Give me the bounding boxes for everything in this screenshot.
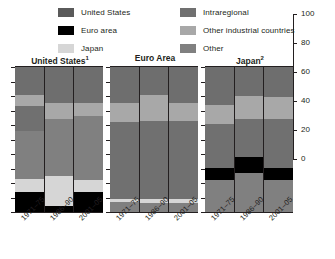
panel-title-text: United States	[31, 56, 85, 66]
bar-segment[interactable]	[140, 121, 169, 199]
stacked-bar[interactable]	[74, 67, 103, 212]
y-axis-tick	[293, 14, 297, 15]
bar-segment[interactable]	[15, 106, 44, 131]
bar-segment[interactable]	[264, 97, 293, 119]
y-axis-tick	[293, 159, 297, 160]
chart-legend: United StatesEuro areaJapan Intraregiona…	[0, 0, 335, 52]
legend-item-label: Other industrial countries	[203, 26, 295, 35]
bar-segment[interactable]	[45, 119, 74, 176]
bar-segment[interactable]	[45, 67, 74, 103]
bar-segment[interactable]	[169, 103, 198, 120]
bar-segment[interactable]	[169, 67, 198, 103]
bar-segment[interactable]	[264, 119, 293, 168]
panel-title-footnote: 2	[261, 55, 264, 61]
panel-title: United States1	[15, 52, 105, 66]
chart-panel: Euro Area1971–751986–902001–05	[110, 52, 200, 259]
legend-item[interactable]: Intraregional	[180, 4, 295, 20]
stacked-bar[interactable]	[264, 67, 293, 212]
bar-segment[interactable]	[110, 122, 139, 199]
chart-panel: United States11971–751986–902001–05	[15, 52, 105, 259]
y-axis-tick	[293, 101, 297, 102]
bar-group	[15, 67, 103, 212]
legend-item[interactable]: Euro area	[58, 22, 130, 38]
bar-segment[interactable]	[235, 96, 264, 119]
legend-swatch-united-states	[58, 8, 74, 17]
bar-segment[interactable]	[235, 119, 264, 157]
stacked-bar[interactable]	[235, 67, 265, 212]
legend-item[interactable]: United States	[58, 4, 130, 20]
stacked-bar[interactable]	[205, 67, 235, 212]
chart-panels: United States11971–751986–902001–05Euro …	[0, 52, 335, 259]
panel-title-text: Japan	[236, 56, 261, 66]
x-axis-labels: 1971–751986–902001–05	[110, 213, 198, 259]
bar-segment[interactable]	[140, 67, 169, 95]
bar-segment[interactable]	[15, 67, 44, 95]
bar-segment[interactable]	[235, 157, 264, 173]
legend-swatch-euro-area	[58, 26, 74, 35]
legend-item-label: Intraregional	[203, 8, 249, 17]
legend-item-label: United States	[81, 8, 130, 17]
chart-panel: Japan21971–751986–902001–05	[205, 52, 295, 259]
legend-swatch-other-industrial-countries	[180, 26, 196, 35]
bar-segment[interactable]	[15, 95, 44, 107]
x-axis-labels: 1971–751986–902001–05	[205, 213, 293, 259]
plot-area	[205, 66, 293, 213]
bar-segment[interactable]	[110, 67, 139, 103]
x-axis-labels: 1971–751986–902001–05	[15, 213, 103, 259]
stacked-bar[interactable]	[169, 67, 198, 212]
bar-segment[interactable]	[74, 180, 103, 192]
bar-segment[interactable]	[110, 103, 139, 122]
panel-title-footnote: 1	[85, 55, 88, 61]
panel-title: Euro Area	[110, 52, 200, 66]
y-axis-tick	[293, 43, 297, 44]
bar-segment[interactable]	[45, 103, 74, 119]
stacked-bar[interactable]	[45, 67, 75, 212]
bar-group	[205, 67, 293, 212]
bar-segment[interactable]	[205, 67, 234, 105]
y-axis-tick	[293, 130, 297, 131]
panel-title-text: Euro Area	[135, 53, 175, 63]
bar-segment[interactable]	[205, 105, 234, 124]
bar-segment[interactable]	[264, 67, 293, 97]
bar-segment[interactable]	[74, 116, 103, 180]
y-axis-label: 20	[301, 126, 310, 134]
bar-segment[interactable]	[205, 168, 234, 180]
y-axis-label: 0	[301, 155, 305, 163]
bar-segment[interactable]	[205, 124, 234, 169]
stacked-bar[interactable]	[15, 67, 45, 212]
plot-area	[110, 66, 198, 213]
bar-segment[interactable]	[74, 103, 103, 116]
y-axis-label: 40	[301, 97, 310, 105]
bar-segment[interactable]	[264, 168, 293, 180]
bar-segment[interactable]	[140, 95, 169, 121]
plot-area	[15, 66, 103, 213]
y-axis-label: 100	[301, 10, 314, 18]
bar-segment[interactable]	[169, 121, 198, 199]
y-axis: 020406080100	[293, 0, 335, 147]
bar-group	[110, 67, 198, 212]
legend-swatch-intraregional	[180, 8, 196, 17]
stacked-bar[interactable]	[140, 67, 170, 212]
legend-item-label: Euro area	[81, 26, 117, 35]
bar-segment[interactable]	[235, 67, 264, 96]
bar-segment[interactable]	[15, 131, 44, 179]
bar-segment[interactable]	[74, 67, 103, 103]
panel-title: Japan2	[205, 52, 295, 66]
legend-column-right: IntraregionalOther industrial countriesO…	[180, 4, 295, 58]
y-axis-label: 60	[301, 68, 310, 76]
legend-column-left: United StatesEuro areaJapan	[58, 4, 130, 58]
stacked-bar[interactable]	[110, 67, 140, 212]
y-axis-label: 80	[301, 39, 310, 47]
y-axis-tick	[293, 72, 297, 73]
y-axis-line	[293, 14, 294, 160]
bar-segment[interactable]	[15, 179, 44, 192]
legend-item[interactable]: Other industrial countries	[180, 22, 295, 38]
